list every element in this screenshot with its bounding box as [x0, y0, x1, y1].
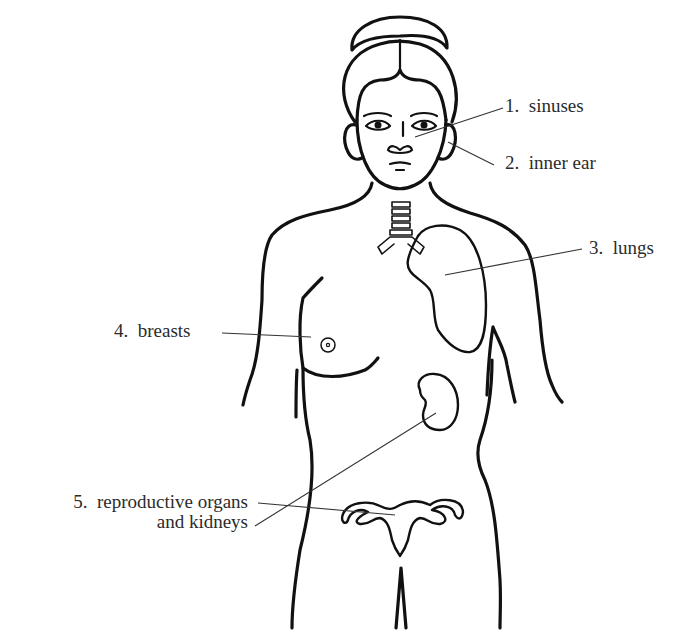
right-brow	[411, 113, 437, 116]
mouth	[390, 163, 410, 171]
label-number: 2.	[505, 152, 519, 173]
label-inner-ear: 2. inner ear	[505, 153, 596, 173]
breast-outline	[300, 278, 378, 377]
leader-lungs	[445, 249, 582, 275]
uterus	[342, 500, 463, 556]
label-number: 4.	[114, 320, 128, 341]
label-text: inner ear	[529, 152, 596, 173]
left-pupil	[375, 122, 382, 129]
kidney	[419, 374, 458, 430]
label-text: lungs	[613, 237, 654, 258]
breast-nipple	[326, 343, 329, 346]
label-sinuses: 1. sinuses	[505, 96, 584, 116]
left-brow	[364, 113, 391, 116]
inner-legs	[396, 568, 406, 628]
lung	[408, 225, 486, 352]
right-torso-side	[478, 360, 501, 628]
label-number: 1.	[505, 95, 519, 116]
label-text-line2: and kidneys	[157, 511, 248, 532]
nose	[388, 122, 412, 153]
left-inner-arm	[296, 370, 297, 417]
right-pupil	[421, 122, 428, 129]
label-text: reproductive organs	[97, 491, 248, 512]
label-text: sinuses	[529, 95, 584, 116]
hairline	[357, 70, 446, 120]
leader-inner-ear	[448, 142, 494, 165]
label-reproductive-kidneys: 5. reproductive organs and kidneys	[8, 492, 248, 532]
face-outline	[357, 120, 446, 189]
label-number: 3.	[589, 237, 603, 258]
leader-breasts	[222, 333, 311, 337]
breast-areola	[321, 338, 335, 352]
label-lungs: 3. lungs	[589, 238, 654, 258]
trachea	[378, 202, 424, 254]
right-shoulder-arm	[430, 183, 562, 402]
label-text: breasts	[138, 320, 191, 341]
label-breasts: 4. breasts	[114, 321, 191, 341]
label-number: 5.	[73, 491, 87, 512]
